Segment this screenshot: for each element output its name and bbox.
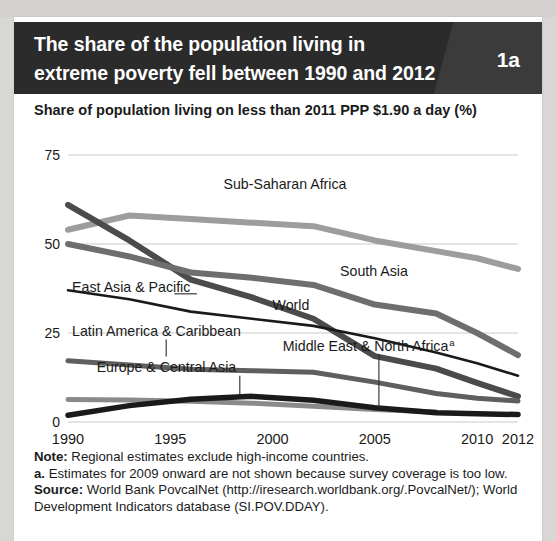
figure-notes: Note: Regional estimates exclude high-in… bbox=[34, 449, 529, 515]
y-axis-tick-label: 75 bbox=[44, 147, 60, 163]
x-axis-tick-label: 2012 bbox=[502, 431, 534, 447]
series-label-text: World bbox=[273, 297, 310, 313]
x-axis-tick-label: 2000 bbox=[256, 431, 288, 447]
series-label-text: Sub-Saharan Africa bbox=[223, 176, 346, 192]
series-label: Europe & Central Asia bbox=[97, 359, 237, 375]
top-strip bbox=[0, 0, 556, 17]
x-axis-tick-label: 1990 bbox=[52, 431, 84, 447]
source-label: Source: bbox=[34, 482, 83, 497]
chart-area: 0255075199019952000200520102012Sub-Sahar… bbox=[14, 17, 542, 457]
series-label: Sub-Saharan Africa bbox=[223, 176, 346, 192]
series-label: World bbox=[273, 297, 310, 313]
series-label: South Asia bbox=[340, 263, 408, 279]
footnote-text: Estimates for 2009 onward are not shown … bbox=[45, 466, 508, 481]
x-axis-tick-label: 1995 bbox=[154, 431, 186, 447]
x-axis-tick-label: 2010 bbox=[461, 431, 493, 447]
series-label-text: Middle East & North Africa bbox=[283, 338, 449, 354]
series-label: Latin America & Caribbean bbox=[72, 323, 241, 339]
series-label-text: South Asia bbox=[340, 263, 408, 279]
y-axis-tick-label: 50 bbox=[44, 236, 60, 252]
footnote-label: a. bbox=[34, 466, 45, 481]
figure-card: The share of the population living in ex… bbox=[14, 17, 542, 541]
footnote-line: a. Estimates for 2009 onward are not sho… bbox=[34, 466, 529, 483]
y-axis-tick-label: 25 bbox=[44, 325, 60, 341]
line-chart: 0255075199019952000200520102012Sub-Sahar… bbox=[14, 17, 542, 457]
series-label: East Asia & Pacific bbox=[72, 279, 190, 295]
series-label-text: East Asia & Pacific bbox=[72, 279, 190, 295]
series-label: Middle East & North AfricaMiddle East & … bbox=[283, 338, 449, 354]
series-label-text: Europe & Central Asia bbox=[97, 359, 237, 375]
series-label-text: Latin America & Caribbean bbox=[72, 323, 241, 339]
note-text: Regional estimates exclude high-income c… bbox=[68, 449, 369, 464]
page-background: The share of the population living in ex… bbox=[0, 0, 556, 541]
x-axis-tick-label: 2005 bbox=[359, 431, 391, 447]
series-label-superscript: a bbox=[449, 337, 455, 348]
source-line: Source: World Bank PovcalNet (http://ire… bbox=[34, 482, 529, 515]
y-axis-tick-label: 0 bbox=[52, 414, 60, 430]
source-text: World Bank PovcalNet (http://iresearch.w… bbox=[34, 482, 517, 514]
note-line: Note: Regional estimates exclude high-in… bbox=[34, 449, 529, 466]
note-label: Note: bbox=[34, 449, 68, 464]
